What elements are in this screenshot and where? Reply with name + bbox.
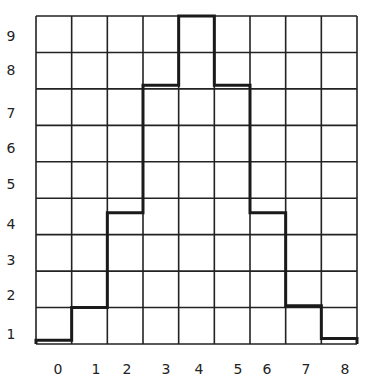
y-tick-label: 7 bbox=[4, 106, 18, 120]
histogram-step-line bbox=[36, 16, 357, 344]
x-tick-label: 5 bbox=[231, 362, 245, 376]
y-tick-label: 5 bbox=[4, 177, 18, 191]
y-tick-label: 9 bbox=[4, 29, 18, 43]
grid-lines bbox=[36, 16, 357, 344]
x-tick-label: 8 bbox=[338, 362, 352, 376]
y-tick-label: 8 bbox=[4, 63, 18, 77]
y-tick-label: 1 bbox=[4, 327, 18, 341]
x-tick-label: 6 bbox=[260, 362, 274, 376]
histogram-chart bbox=[0, 0, 370, 392]
y-tick-label: 3 bbox=[4, 253, 18, 267]
x-tick-label: 0 bbox=[51, 362, 65, 376]
y-tick-label: 2 bbox=[4, 288, 18, 302]
x-tick-label: 1 bbox=[89, 362, 103, 376]
y-tick-label: 4 bbox=[4, 217, 18, 231]
x-tick-label: 4 bbox=[192, 362, 206, 376]
x-tick-label: 2 bbox=[120, 362, 134, 376]
x-tick-label: 7 bbox=[299, 362, 313, 376]
y-tick-label: 6 bbox=[4, 141, 18, 155]
x-tick-label: 3 bbox=[159, 362, 173, 376]
